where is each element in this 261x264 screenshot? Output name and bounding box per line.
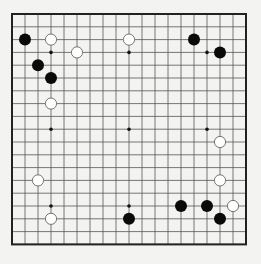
white-stone[interactable]: [227, 200, 238, 211]
black-stone[interactable]: [214, 46, 226, 58]
star-point: [205, 127, 209, 131]
black-stone[interactable]: [188, 34, 200, 46]
black-stone[interactable]: [214, 213, 226, 225]
black-stone[interactable]: [175, 200, 187, 212]
star-point: [49, 204, 53, 208]
white-stone[interactable]: [123, 34, 134, 45]
black-stone[interactable]: [19, 34, 31, 46]
black-stone[interactable]: [45, 72, 57, 84]
star-point: [205, 51, 209, 55]
white-stone[interactable]: [32, 175, 43, 186]
white-stone[interactable]: [214, 136, 225, 147]
star-point: [127, 51, 131, 55]
go-board[interactable]: [0, 0, 261, 264]
white-stone[interactable]: [214, 175, 225, 186]
star-point: [49, 51, 53, 55]
star-point: [49, 127, 53, 131]
star-point: [127, 127, 131, 131]
white-stone[interactable]: [45, 34, 56, 45]
black-stone[interactable]: [32, 59, 44, 71]
star-point: [127, 204, 131, 208]
black-stone[interactable]: [123, 213, 135, 225]
white-stone[interactable]: [45, 98, 56, 109]
white-stone[interactable]: [71, 47, 82, 58]
black-stone[interactable]: [201, 200, 213, 212]
white-stone[interactable]: [45, 213, 56, 224]
